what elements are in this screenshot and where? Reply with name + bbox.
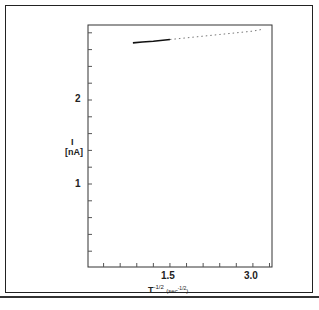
x-tick-label-3-0: 3.0 xyxy=(244,270,258,281)
x-axis-unit: (sec-1/2) xyxy=(166,288,188,294)
x-tick-label-1-5: 1.5 xyxy=(161,270,175,281)
x-axis-exponent: -1/2 xyxy=(154,284,164,290)
y-tick-label-2: 2 xyxy=(75,93,81,104)
y-ticks xyxy=(88,33,92,251)
axes-box xyxy=(88,25,272,267)
y-tick-label-1: 1 xyxy=(75,178,81,189)
data-line-dotted xyxy=(170,29,262,39)
x-ticks xyxy=(104,263,270,267)
y-axis-title: I xyxy=(71,137,74,147)
data-line-solid xyxy=(133,40,170,43)
x-axis-title: T-1/2 (sec-1/2) xyxy=(148,284,188,295)
plot-area xyxy=(0,0,319,310)
y-axis-unit: [nA] xyxy=(65,147,83,157)
